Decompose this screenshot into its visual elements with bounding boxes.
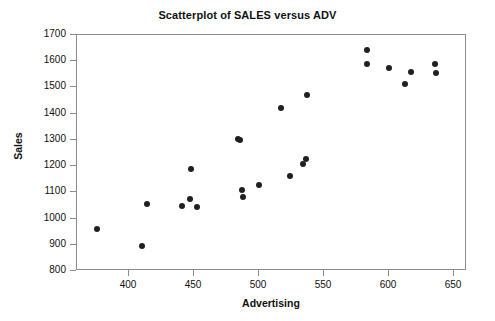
y-axis-tick-label: 1100 — [26, 186, 66, 196]
y-axis-tick-label: 800 — [26, 265, 66, 275]
x-axis-tick — [193, 270, 194, 276]
y-axis-tick-label: 1300 — [26, 134, 66, 144]
data-point — [278, 105, 284, 111]
y-axis-tick-label: 900 — [26, 239, 66, 249]
data-points-layer — [77, 35, 465, 269]
y-axis-tick-label: 1600 — [26, 55, 66, 65]
data-point — [402, 81, 408, 87]
data-point — [187, 196, 193, 202]
y-axis-title: Sales — [12, 116, 24, 176]
x-axis-tick-label: 500 — [236, 279, 280, 290]
data-point — [237, 137, 243, 143]
x-axis-tick-label: 400 — [106, 279, 150, 290]
plot-area — [76, 34, 466, 270]
x-axis-title: Advertising — [76, 297, 466, 309]
y-axis-tick-label: 1200 — [26, 160, 66, 170]
data-point — [408, 69, 414, 75]
data-point — [256, 182, 262, 188]
data-point — [300, 161, 306, 167]
data-point — [303, 156, 309, 162]
data-point — [432, 61, 438, 67]
data-point — [287, 173, 293, 179]
x-axis-tick-label: 600 — [366, 279, 410, 290]
x-axis-tick-label: 450 — [171, 279, 215, 290]
x-axis-tick — [258, 270, 259, 276]
x-axis-tick-label: 650 — [431, 279, 475, 290]
y-axis-tick-label: 1400 — [26, 108, 66, 118]
x-axis-tick — [388, 270, 389, 276]
chart-title: Scatterplot of SALES versus ADV — [0, 9, 495, 21]
data-point — [139, 243, 145, 249]
data-point — [304, 92, 310, 98]
data-point — [194, 204, 200, 210]
y-axis-tick-label: 1700 — [26, 29, 66, 39]
data-point — [433, 70, 439, 76]
data-point — [188, 166, 194, 172]
y-axis-tick-label: 1000 — [26, 213, 66, 223]
x-axis-tick-label: 550 — [301, 279, 345, 290]
data-point — [179, 203, 185, 209]
x-axis-tick — [453, 270, 454, 276]
data-point — [364, 61, 370, 67]
scatterplot-figure: Scatterplot of SALES versus ADV Sales 80… — [0, 0, 495, 321]
x-axis-tick — [128, 270, 129, 276]
data-point — [239, 187, 245, 193]
y-axis-tick — [70, 270, 76, 271]
x-axis-tick — [323, 270, 324, 276]
data-point — [144, 201, 150, 207]
y-axis-tick-label: 1500 — [26, 81, 66, 91]
data-point — [240, 194, 246, 200]
data-point — [386, 65, 392, 71]
data-point — [364, 47, 370, 53]
data-point — [94, 226, 100, 232]
